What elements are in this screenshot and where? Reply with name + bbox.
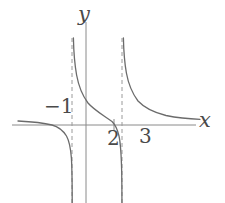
x-axis-label: x: [199, 110, 211, 131]
y-axis-label: y: [78, 4, 90, 25]
tick-label-three: 3: [139, 126, 152, 146]
function-graph-figure: y x −1 2 3: [0, 0, 225, 203]
tick-label-two: 2: [107, 128, 120, 148]
axes-group: [12, 22, 196, 203]
tick-label-neg-one: −1: [44, 96, 73, 116]
curve-group: [18, 38, 200, 203]
curve-right-branch: [123, 38, 200, 119]
curve-middle-branch: [73, 38, 122, 203]
plot-canvas: [0, 0, 225, 203]
curve-left-branch: [18, 121, 72, 203]
